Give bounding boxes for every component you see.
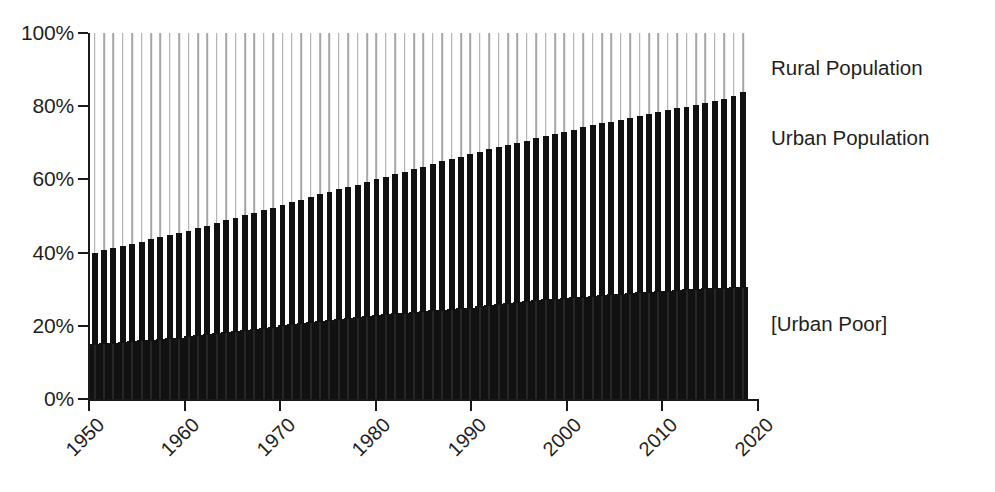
urban-poor-separator (508, 304, 509, 399)
rural-share-line (441, 33, 443, 161)
rural-share-line (479, 33, 481, 152)
rural-share-line (733, 33, 735, 96)
bar-column (439, 33, 445, 399)
annotation-rural-population: Rural Population (771, 57, 923, 79)
urban-poor-separator (564, 299, 565, 399)
rural-share-line (282, 33, 284, 205)
urban-poor-separator (451, 310, 452, 399)
rural-share-line (385, 33, 387, 177)
urban-poor-separator (376, 316, 377, 399)
urban-poor-separator (554, 300, 555, 399)
urban-poor-separator (733, 288, 734, 399)
urban-poor-separator (601, 296, 602, 399)
rural-share-line (488, 33, 490, 149)
urban-poor-separator (263, 329, 264, 399)
urban-poor-separator (357, 318, 358, 399)
rural-share-line (131, 33, 133, 244)
rural-share-line (723, 33, 725, 99)
rural-share-line (216, 33, 218, 223)
urban-poor-separator (197, 336, 198, 399)
bar-column (392, 33, 398, 399)
urban-poor-separator (658, 292, 659, 399)
urban-poor-separator (592, 297, 593, 399)
urban-poor-separator (179, 339, 180, 399)
rural-share-line (94, 33, 96, 253)
urban-poor-separator (648, 293, 649, 399)
rural-share-line (150, 33, 152, 239)
urban-poor-separator (573, 298, 574, 399)
urban-poor-separator (526, 302, 527, 399)
bar-column (514, 33, 520, 399)
y-axis-tick-label: 80% (0, 95, 74, 116)
bar-column (561, 33, 567, 399)
bar-column (486, 33, 492, 399)
x-axis-tick-label: 1990 (444, 414, 490, 460)
y-axis-tick (78, 178, 88, 180)
bar-column (712, 33, 718, 399)
y-axis-tick-label: 0% (0, 388, 74, 409)
bar-column (571, 33, 577, 399)
urban-poor-separator (235, 332, 236, 399)
bar-column (186, 33, 192, 399)
rural-share-line (620, 33, 622, 120)
y-axis-tick-label: 40% (0, 242, 74, 263)
rural-share-line (413, 33, 415, 169)
x-axis-tick-label: 2020 (731, 414, 777, 460)
rural-share-line (254, 33, 256, 213)
x-axis-tick (470, 400, 472, 411)
urban-poor-separator (620, 295, 621, 399)
rural-share-line (582, 33, 584, 127)
urban-poor-separator (348, 319, 349, 399)
rural-share-line (451, 33, 453, 159)
rural-share-line (272, 33, 274, 208)
bar-column (110, 33, 116, 399)
bar-column (411, 33, 417, 399)
rural-share-line (319, 33, 321, 194)
urban-poor-separator (470, 309, 471, 400)
urban-poor-separator (150, 341, 151, 399)
urban-poor-separator (395, 314, 396, 399)
rural-share-line (460, 33, 462, 157)
urban-poor-separator (113, 344, 114, 399)
rural-share-line (535, 33, 537, 138)
bar-column (590, 33, 596, 399)
bar-column (148, 33, 154, 399)
x-axis-line (88, 399, 759, 401)
urban-poor-separator (310, 323, 311, 399)
urban-poor-separator (545, 300, 546, 399)
rural-share-line (404, 33, 406, 172)
rural-share-line (676, 33, 678, 108)
y-axis-tick (78, 252, 88, 254)
urban-poor-separator (630, 294, 631, 399)
rural-share-line (122, 33, 124, 246)
x-axis-tick (88, 400, 90, 411)
urban-poor-separator (122, 343, 123, 399)
rural-share-line (695, 33, 697, 105)
urban-poor-separator (94, 345, 95, 399)
x-axis-tick-label: 2000 (539, 414, 585, 460)
bar-column (731, 33, 737, 399)
bar-column (280, 33, 286, 399)
x-axis-tick-label: 1980 (348, 414, 394, 460)
bar-column (608, 33, 614, 399)
rural-share-line (554, 33, 556, 134)
bar-column (270, 33, 276, 399)
bar-column (261, 33, 267, 399)
bar-column (505, 33, 511, 399)
bar-column (618, 33, 624, 399)
bar-column (599, 33, 605, 399)
bar-column (308, 33, 314, 399)
rural-share-line (291, 33, 293, 202)
rural-share-line (667, 33, 669, 110)
rural-share-line (188, 33, 190, 231)
urban-poor-separator (385, 315, 386, 399)
urban-poor-separator (244, 331, 245, 399)
y-axis-tick (78, 325, 88, 327)
bar-column (637, 33, 643, 399)
bar-column (345, 33, 351, 399)
bar-column (674, 33, 680, 399)
plot-area (89, 33, 758, 399)
rural-share-line (601, 33, 603, 123)
urban-poor-separator (103, 344, 104, 399)
urban-poor-separator (254, 330, 255, 399)
